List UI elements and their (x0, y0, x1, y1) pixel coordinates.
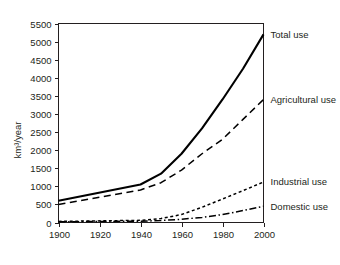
y-axis-tick-labels: 0500100015002000250030003500400045005000… (30, 19, 51, 229)
x-tick-label: 1920 (90, 229, 111, 240)
data-series-group (59, 34, 264, 221)
x-tick-label: 1940 (131, 229, 152, 240)
x-tick-label: 1960 (172, 229, 193, 240)
y-tick-label: 3500 (30, 91, 51, 102)
series-line-domestic-use (59, 206, 264, 222)
x-tick-label: 2000 (254, 229, 275, 240)
y-axis-ticks (55, 25, 59, 224)
x-tick-label: 1980 (213, 229, 234, 240)
series-line-total-use (59, 34, 264, 200)
water-use-chart-figure: 0500100015002000250030003500400045005000… (0, 0, 340, 265)
y-tick-label: 3000 (30, 109, 51, 120)
chart-canvas: 0500100015002000250030003500400045005000… (0, 0, 340, 265)
x-axis-ticks (60, 223, 265, 227)
y-tick-label: 5000 (30, 37, 51, 48)
axis-frame (59, 24, 264, 223)
series-label-domestic-use: Domestic use (271, 201, 329, 212)
y-axis-title: km³/year (12, 122, 23, 159)
plot-frame (59, 24, 264, 223)
y-tick-label: 4000 (30, 73, 51, 84)
y-tick-label: 1000 (30, 181, 51, 192)
x-tick-label: 1900 (49, 229, 70, 240)
x-axis-tick-labels: 190019201940196019802000 (49, 229, 275, 240)
y-tick-label: 0 (46, 218, 51, 229)
series-label-agricultural-use: Agricultural use (271, 94, 336, 105)
series-label-group: Total useAgricultural useIndustrial useD… (271, 29, 336, 212)
y-tick-label: 5500 (30, 19, 51, 30)
y-tick-label: 2000 (30, 145, 51, 156)
series-line-agricultural-use (59, 99, 264, 204)
y-tick-label: 500 (36, 199, 52, 210)
series-label-total-use: Total use (271, 29, 309, 40)
series-label-industrial-use: Industrial use (271, 176, 328, 187)
series-line-industrial-use (59, 182, 264, 221)
y-tick-label: 1500 (30, 163, 51, 174)
y-tick-label: 4500 (30, 55, 51, 66)
y-tick-label: 2500 (30, 127, 51, 138)
